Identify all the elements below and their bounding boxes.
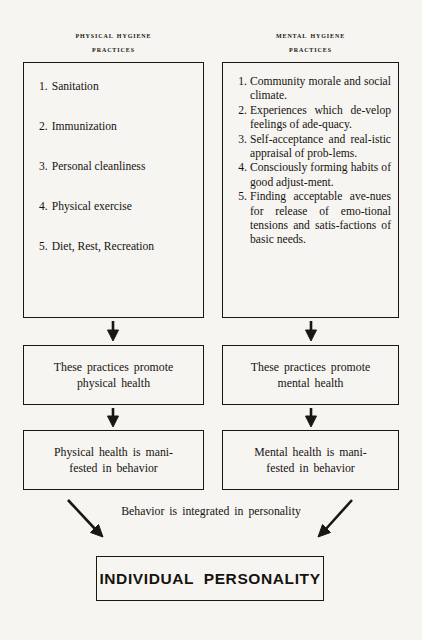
heading-line-1: PHYSICAL HYGIENE	[23, 28, 204, 42]
physical-practice-item: 3.Personal cleanliness	[39, 160, 195, 174]
physical-manifest-text: Physical health is mani- fested in behav…	[30, 444, 197, 476]
flowchart-diagram: PHYSICAL HYGIENE PRACTICES MENTAL HYGIEN…	[0, 0, 422, 640]
mental-manifest-box: Mental health is mani- fested in behavio…	[222, 430, 399, 490]
mental-promote-text: These practices promote mental health	[229, 359, 392, 391]
mental-practice-item-text: Finding acceptable ave-​nues for release…	[250, 190, 391, 246]
physical-practice-item: 5.Diet, Rest, Recreation	[39, 240, 195, 254]
mental-practice-item: 4.Consciously forming habits of good adj…	[233, 161, 391, 190]
mental-practice-item-number: 3.	[233, 133, 247, 147]
manifest-line-2: fested in behavior	[266, 461, 355, 475]
physical-practice-item-number: 4.	[39, 200, 48, 213]
physical-practice-item-number: 1.	[39, 80, 48, 93]
mental-practice-item-number: 4.	[233, 161, 247, 175]
mental-practice-item: 3.Self-​acceptance and real-​istic appra…	[233, 133, 391, 162]
physical-practice-item-text: Physical exercise	[52, 200, 132, 213]
physical-practice-item-text: Personal cleanliness	[52, 160, 146, 173]
heading-line-1: MENTAL HYGIENE	[222, 28, 399, 42]
promote-line-2: physical health	[77, 376, 150, 390]
mental-practice-item-number: 5.	[233, 190, 247, 204]
manifest-line-1: Physical health is mani-	[54, 445, 173, 459]
physical-practice-item-text: Diet, Rest, Recreation	[52, 240, 154, 253]
physical-practices-box: 1.Sanitation2.Immunization3.Personal cle…	[23, 62, 204, 318]
arrow-down-icon-mental-2	[306, 408, 317, 427]
mental-practice-item-text: Self-​acceptance and real-​istic apprais…	[250, 133, 391, 160]
mental-practices-box: 1.Community morale and social climate.2.…	[222, 62, 399, 318]
mental-practice-item-text: Experiences which de-​velop feelings of …	[250, 104, 391, 131]
physical-practice-item: 1.Sanitation	[39, 80, 195, 94]
physical-practice-item-text: Immunization	[52, 120, 117, 133]
physical-practice-item-number: 3.	[39, 160, 48, 173]
arrow-down-icon-mental-1	[306, 321, 317, 341]
mental-manifest-text: Mental health is mani- fested in behavio…	[229, 444, 392, 476]
physical-manifest-box: Physical health is mani- fested in behav…	[23, 430, 204, 490]
arrow-down-icon-physical-1	[108, 321, 119, 341]
mental-practice-item-number: 1.	[233, 75, 247, 89]
promote-line-2: mental health	[278, 376, 344, 390]
manifest-line-1: Mental health is mani-	[254, 445, 366, 459]
physical-practice-item-text: Sanitation	[52, 80, 99, 93]
physical-promote-box: These practices promote physical health	[23, 345, 204, 405]
mental-practice-item-text: Consciously forming habits of good adjus…	[250, 161, 391, 188]
physical-practice-item-number: 5.	[39, 240, 48, 253]
physical-practice-item: 4.Physical exercise	[39, 200, 195, 214]
physical-practices-list: 1.Sanitation2.Immunization3.Personal cle…	[39, 80, 195, 280]
promote-line-1: These practices promote	[251, 360, 370, 374]
heading-line-2: PRACTICES	[222, 42, 399, 56]
physical-promote-text: These practices promote physical health	[30, 359, 197, 391]
manifest-line-2: fested in behavior	[69, 461, 158, 475]
mental-practice-item: 2.Experiences which de-​velop feelings o…	[233, 104, 391, 133]
arrow-down-icon-physical-2	[108, 408, 119, 427]
mental-practice-item-number: 2.	[233, 104, 247, 118]
physical-practice-item-number: 2.	[39, 120, 48, 133]
behavior-integration-caption: Behavior is integrated in personality	[0, 504, 422, 519]
mental-practice-item: 5.Finding acceptable ave-​nues for relea…	[233, 190, 391, 248]
mental-practices-list: 1.Community morale and social climate.2.…	[233, 75, 391, 248]
heading-line-2: PRACTICES	[23, 42, 204, 56]
individual-personality-box: INDIVIDUAL PERSONALITY	[96, 556, 324, 601]
individual-personality-label: INDIVIDUAL PERSONALITY	[97, 570, 323, 588]
mental-practice-item-text: Community morale and social climate.	[250, 75, 391, 102]
mental-practice-item: 1.Community morale and social climate.	[233, 75, 391, 104]
promote-line-1: These practices promote	[54, 360, 173, 374]
column-heading-mental: MENTAL HYGIENE PRACTICES	[222, 28, 399, 56]
column-heading-physical: PHYSICAL HYGIENE PRACTICES	[23, 28, 204, 56]
mental-promote-box: These practices promote mental health	[222, 345, 399, 405]
physical-practice-item: 2.Immunization	[39, 120, 195, 134]
